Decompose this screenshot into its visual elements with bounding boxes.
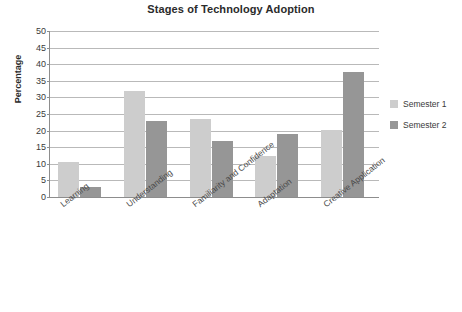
y-tick-mark bbox=[47, 81, 50, 82]
bar-semester-1 bbox=[124, 91, 145, 197]
y-tick-mark bbox=[47, 114, 50, 115]
bar-chart: Stages of Technology Adoption Percentage… bbox=[0, 0, 462, 312]
y-axis-title: Percentage bbox=[13, 39, 23, 119]
y-tick-mark bbox=[47, 197, 50, 198]
bar-semester-1 bbox=[190, 119, 211, 197]
y-tick-label: 50 bbox=[36, 27, 46, 36]
y-tick-label: 10 bbox=[36, 159, 46, 168]
chart-legend: Semester 1Semester 2 bbox=[390, 98, 446, 140]
legend-label: Semester 1 bbox=[403, 99, 446, 109]
legend-item[interactable]: Semester 2 bbox=[390, 119, 446, 130]
legend-item[interactable]: Semester 1 bbox=[390, 98, 446, 109]
y-tick-mark bbox=[47, 64, 50, 65]
y-tick-label: 45 bbox=[36, 43, 46, 52]
y-tick-label: 25 bbox=[36, 110, 46, 119]
y-tick-mark bbox=[47, 180, 50, 181]
y-tick-mark bbox=[47, 31, 50, 32]
y-tick-mark bbox=[47, 131, 50, 132]
y-tick-label: 35 bbox=[36, 76, 46, 85]
y-tick-mark bbox=[47, 97, 50, 98]
y-tick-label: 20 bbox=[36, 126, 46, 135]
y-tick-label: 15 bbox=[36, 143, 46, 152]
y-tick-mark bbox=[47, 164, 50, 165]
chart-title: Stages of Technology Adoption bbox=[0, 3, 462, 15]
legend-label: Semester 2 bbox=[403, 120, 446, 130]
legend-swatch-icon bbox=[390, 121, 398, 129]
legend-swatch-icon bbox=[390, 100, 398, 108]
y-tick-label: 40 bbox=[36, 60, 46, 69]
y-tick-label: 30 bbox=[36, 93, 46, 102]
y-tick-mark bbox=[47, 48, 50, 49]
bar-group bbox=[255, 31, 298, 197]
y-tick-label: 5 bbox=[41, 176, 46, 185]
plot-area: 05101520253035404550 bbox=[49, 31, 379, 198]
y-tick-mark bbox=[47, 147, 50, 148]
y-tick-label: 0 bbox=[41, 193, 46, 202]
bar-group bbox=[58, 31, 101, 197]
